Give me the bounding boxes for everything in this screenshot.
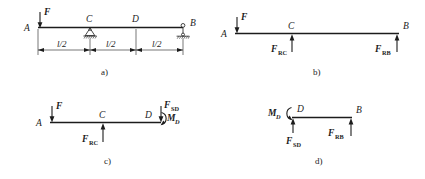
panel-a-force-F-arrow [38,12,43,28]
panel-b-reaction-FRB-label: F [374,44,382,54]
panel-d-reaction-FRB-subscript: RB [335,133,345,140]
panel-d-node-label-B: B [356,105,362,115]
panel-d-shear-FSD-label: F [285,136,293,146]
panel-b-node-label-C: C [288,21,295,31]
panel-c-moment-MD-subscript: D [174,118,180,125]
panel-d-caption: d) [315,156,323,166]
panel-a-node-label-C: C [86,14,93,24]
panel-d-node-label-D: D [296,104,304,114]
panel-b-force-F-label: F [240,12,248,22]
panel-d-moment-MD-arrow [287,108,293,121]
panel-b-reaction-FRC-arrow [290,34,295,52]
panel-a-node-label-B: B [190,18,196,28]
panel-c-reaction-FRC-arrow [101,123,106,142]
pin-support-icon [83,28,96,38]
panel-a-force-F-label: F [43,7,51,17]
panel-c-caption: c) [104,156,111,166]
panel-c-reaction-FRC-label: F [81,134,89,144]
panel-a-node-label-A: A [23,23,30,33]
panel-a: A F C D [23,7,196,77]
panel-c-shear-FSD-subscript: SD [171,105,180,112]
panel-c-node-label-D: D [144,110,152,120]
panel-c-force-F-label: F [55,101,63,111]
panel-b-reaction-FRB-arrow [395,34,400,52]
panel-d-shear-FSD-arrow [291,118,296,133]
panel-c-node-label-C: C [99,110,106,120]
panel-a-dimension-label-3: l/2 [152,39,162,49]
panel-b-reaction-FRC-label: F [270,44,278,54]
panel-c-reaction-FRC-subscript: RC [89,139,99,146]
panel-b-node-label-A: A [220,29,227,39]
panel-b-node-label-B: B [403,21,409,31]
panel-c-shear-FSD-arrow [159,106,164,123]
panel-c: A F C F RC D F SD M D c) [35,100,180,166]
panel-d: M D D F SD B F RB d) [267,104,362,166]
panel-a-dimension-3: l/2 [136,39,183,52]
panel-a-caption: a) [101,67,108,77]
panel-d-shear-FSD-subscript: SD [293,141,302,148]
panel-b: A F C F RC B F RB b) [220,12,409,77]
panel-b-reaction-FRC-subscript: RC [278,49,288,56]
panel-a-dimension-label-2: l/2 [106,39,116,49]
panel-b-caption: b) [313,67,321,77]
panel-c-force-F-arrow [50,106,55,123]
panel-d-reaction-FRB-arrow [349,118,354,136]
roller-pin-support-icon [177,24,190,39]
panel-b-force-F-arrow [235,17,240,34]
panel-d-moment-MD-subscript: D [275,113,281,120]
panel-b-reaction-FRB-subscript: RB [382,49,392,56]
panel-a-dimension-1: l/2 [38,39,90,52]
panel-c-node-label-A: A [35,118,42,128]
panel-d-reaction-FRB-label: F [327,128,335,138]
panel-a-dimension-2: l/2 [90,39,136,52]
panel-a-dimension-label-1: l/2 [57,39,67,49]
panel-c-shear-FSD-label: F [163,100,171,110]
panel-a-node-label-D: D [131,14,139,24]
beam-diagram-figure: A F C D [0,0,425,179]
